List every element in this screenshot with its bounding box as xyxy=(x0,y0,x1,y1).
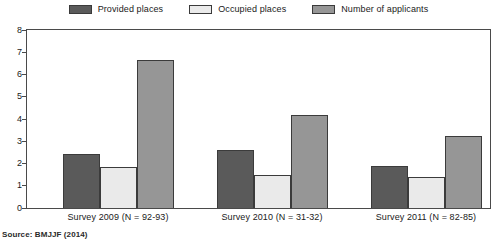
bar[interactable] xyxy=(217,150,254,208)
bar[interactable] xyxy=(63,154,100,209)
legend-item-label: Occupied places xyxy=(218,4,286,14)
legend-item[interactable]: Number of applicants xyxy=(312,4,428,14)
legend-item-label: Provided places xyxy=(98,4,164,14)
bar[interactable] xyxy=(445,136,482,208)
bar[interactable] xyxy=(100,167,137,208)
legend-swatch-icon xyxy=(312,5,335,14)
bar[interactable] xyxy=(408,177,445,208)
bar[interactable] xyxy=(371,166,408,208)
x-axis-category-label: Survey 2010 (N = 31-32) xyxy=(195,212,349,222)
bar-group xyxy=(63,30,174,208)
bar-group xyxy=(371,30,482,208)
x-axis-category-label: Survey 2009 (N = 92-93) xyxy=(41,212,195,222)
legend-item-label: Number of applicants xyxy=(341,4,428,14)
x-axis-labels: Survey 2009 (N = 92-93)Survey 2010 (N = … xyxy=(27,212,490,226)
bar[interactable] xyxy=(291,115,328,208)
source-note: Source: BMJJF (2014) xyxy=(2,230,88,239)
legend-swatch-icon xyxy=(189,5,212,14)
chart-container: Provided placesOccupied placesNumber of … xyxy=(0,0,497,239)
bar[interactable] xyxy=(137,60,174,208)
bar-group xyxy=(217,30,328,208)
chart-legend: Provided placesOccupied placesNumber of … xyxy=(0,4,497,14)
bar[interactable] xyxy=(254,175,291,208)
bars-layer xyxy=(27,30,490,208)
y-axis: 012345678 xyxy=(0,29,26,209)
x-axis-category-label: Survey 2011 (N = 82-85) xyxy=(349,212,497,222)
legend-item[interactable]: Provided places xyxy=(69,4,164,14)
legend-swatch-icon xyxy=(69,5,92,14)
legend-item[interactable]: Occupied places xyxy=(189,4,286,14)
